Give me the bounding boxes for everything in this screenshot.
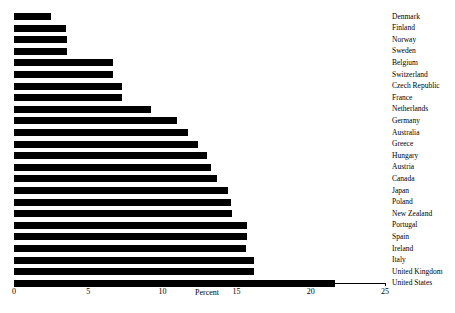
x-tick-label: 25 — [372, 287, 398, 297]
category-label: Ireland — [392, 244, 413, 253]
bar — [14, 199, 231, 206]
category-label: Czech Republic — [392, 81, 440, 90]
x-tick-mark — [162, 283, 163, 286]
category-label: Norway — [392, 35, 416, 44]
x-tick-mark — [385, 283, 386, 286]
category-label: Poland — [392, 197, 413, 206]
bar — [14, 48, 67, 55]
bar — [14, 152, 207, 159]
bar — [14, 257, 254, 264]
x-axis-line — [14, 283, 385, 284]
x-tick-label: 5 — [75, 287, 101, 297]
bar — [14, 164, 211, 171]
category-label: Finland — [392, 23, 415, 32]
bar — [14, 141, 198, 148]
category-label: Netherlands — [392, 104, 428, 113]
category-label: Italy — [392, 255, 406, 264]
category-label: New Zealand — [392, 209, 432, 218]
x-tick-mark — [14, 283, 15, 286]
category-label: Canada — [392, 174, 415, 183]
category-label: United States — [392, 278, 432, 287]
category-label: Australia — [392, 128, 420, 137]
x-tick-label: 20 — [298, 287, 324, 297]
category-label: Belgium — [392, 58, 418, 67]
bar — [14, 36, 67, 43]
bar — [14, 175, 217, 182]
bar — [14, 187, 228, 194]
bar — [14, 106, 151, 113]
x-tick-mark — [88, 283, 89, 286]
x-tick-label: 0 — [1, 287, 27, 297]
category-axis-labels: DenmarkFinlandNorwaySwedenBelgiumSwitzer… — [392, 0, 455, 285]
bar — [14, 117, 177, 124]
category-label: Portugal — [392, 220, 417, 229]
category-label: Sweden — [392, 46, 416, 55]
x-tick-mark — [237, 283, 238, 286]
category-label: United Kingdom — [392, 267, 443, 276]
x-axis-title: Percent — [177, 288, 237, 298]
bar — [14, 245, 246, 252]
category-label: Spain — [392, 232, 409, 241]
category-label: Denmark — [392, 12, 420, 21]
category-label: France — [392, 93, 412, 102]
bar — [14, 129, 188, 136]
bar — [14, 222, 247, 229]
x-tick-label: 10 — [149, 287, 175, 297]
category-label: Greece — [392, 139, 413, 148]
bar — [14, 210, 232, 217]
bar-chart: 0510152025 Percent DenmarkFinlandNorwayS… — [0, 0, 455, 313]
plot-area — [0, 0, 390, 285]
bar — [14, 233, 247, 240]
category-label: Austria — [392, 162, 414, 171]
bar — [14, 94, 122, 101]
x-tick-mark — [311, 283, 312, 286]
bar — [14, 25, 66, 32]
bar — [14, 71, 113, 78]
bar — [14, 13, 51, 20]
bar — [14, 268, 254, 275]
category-label: Switzerland — [392, 70, 428, 79]
bar — [14, 59, 113, 66]
category-label: Germany — [392, 116, 420, 125]
category-label: Japan — [392, 186, 409, 195]
category-label: Hungary — [392, 151, 418, 160]
bar — [14, 83, 122, 90]
